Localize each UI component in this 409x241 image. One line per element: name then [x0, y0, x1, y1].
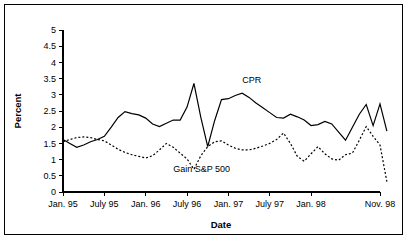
y-axis-ticks: 00.511.522.533.544.55 [43, 25, 63, 197]
y-tick-label: 5 [51, 25, 56, 35]
x-tick-label: Nov. 98 [365, 199, 395, 209]
x-axis-ticks: Jan. 95July 95Jan. 96July 96Jan. 97July … [48, 192, 395, 209]
x-tick-label: Jan. 98 [296, 199, 326, 209]
x-axis-title: Date [211, 219, 232, 230]
line-chart: 00.511.522.533.544.55 Jan. 95July 95Jan.… [5, 5, 404, 236]
series-line-cpr [63, 83, 387, 147]
chart-series-labels: CPRGain S&P 500 [173, 75, 261, 173]
y-axis-title: Percent [12, 93, 23, 129]
x-tick-label: Jan. 96 [131, 199, 161, 209]
chart-plot-area: 00.511.522.533.544.55 Jan. 95July 95Jan.… [5, 5, 404, 236]
y-tick-label: 3 [51, 90, 56, 100]
y-tick-label: 4.5 [43, 41, 56, 51]
y-tick-label: 0.5 [43, 171, 56, 181]
y-tick-label: 3.5 [43, 74, 56, 84]
y-tick-label: 1 [51, 155, 56, 165]
x-tick-label: Jan. 97 [214, 199, 244, 209]
x-tick-label: Jan. 95 [48, 199, 78, 209]
y-tick-label: 2.5 [43, 106, 56, 116]
x-tick-label: July 96 [173, 199, 202, 209]
y-tick-label: 1.5 [43, 139, 56, 149]
x-tick-label: July 95 [90, 199, 119, 209]
series-label-cpr: CPR [242, 75, 262, 85]
y-tick-label: 2 [51, 122, 56, 132]
x-tick-label: July 97 [255, 199, 284, 209]
series-label-gain-sp500: Gain S&P 500 [173, 164, 230, 174]
figure-frame: 00.511.522.533.544.55 Jan. 95July 95Jan.… [4, 4, 403, 235]
y-tick-label: 0 [51, 187, 56, 197]
y-tick-label: 4 [51, 58, 56, 68]
